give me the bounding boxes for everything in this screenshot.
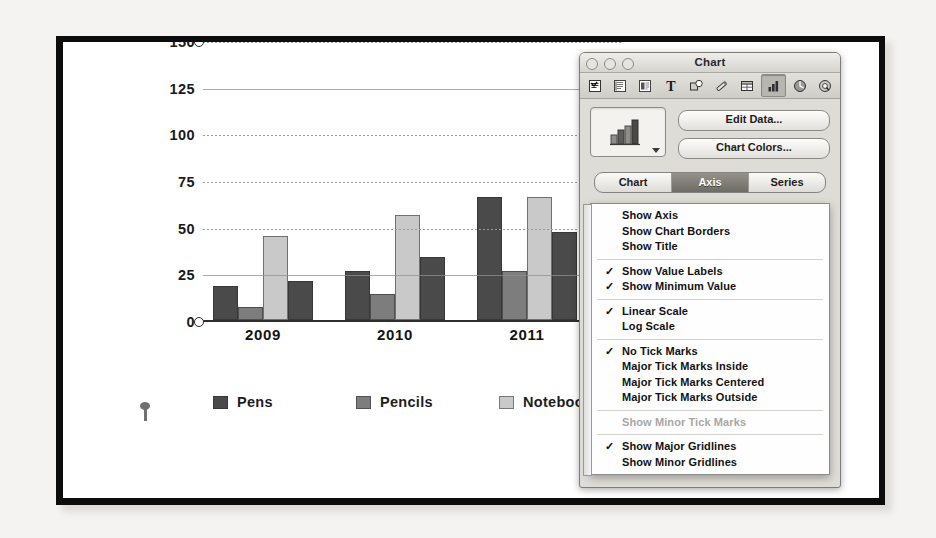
y-axis-tick: 25 [63,267,195,283]
menu-item-label: Major Tick Marks Centered [622,376,764,388]
menu-item-label: Show Minor Gridlines [622,456,737,468]
y-axis-tick: 125 [63,81,195,97]
bar [345,271,370,320]
axis-options-menu[interactable]: Show AxisShow Chart BordersShow Title✓Sh… [590,203,830,475]
menu-item-label: Log Scale [622,320,675,332]
window-title: Chart [580,53,840,72]
hyperlink-inspector-icon[interactable] [789,75,812,96]
tab-axis[interactable]: Axis [672,173,749,192]
legend-label: Pens [237,394,273,410]
legend-swatch [356,396,371,409]
x-axis-baseline [203,320,623,322]
wrap-inspector-icon[interactable] [634,75,657,96]
menu-item-label: Show Chart Borders [622,225,730,237]
menu-separator [597,339,823,340]
x-axis-tick: 2011 [510,326,545,343]
svg-text:T: T [666,79,676,94]
menu-item-major-tick-marks-centered[interactable]: Major Tick Marks Centered [591,375,829,391]
check-icon: ✓ [605,304,614,320]
gridline [203,135,623,136]
pin-marker-icon [140,402,150,422]
menu-item-label: Linear Scale [622,305,688,317]
menu-item-label: Major Tick Marks Inside [622,360,748,372]
chevron-down-icon[interactable] [652,148,660,153]
screenshot-root: 0255075100125150 200920102011 PensPencil… [0,0,936,538]
menu-item-show-title[interactable]: Show Title [591,239,829,255]
menu-item-show-axis[interactable]: Show Axis [591,208,829,224]
bar [263,236,288,320]
graphic-inspector-icon[interactable] [685,75,708,96]
menu-item-label: Show Value Labels [622,265,723,277]
bar-chart-icon [607,117,649,147]
tab-series[interactable]: Series [749,173,825,192]
chart-colors-button[interactable]: Chart Colors... [678,138,830,159]
bar [238,307,263,320]
layout-inspector-icon[interactable] [608,75,631,96]
inspector-titlebar[interactable]: Chart [580,53,840,73]
bar [477,197,502,320]
y-axis-tick: 0 [63,314,195,330]
menu-item-no-tick-marks[interactable]: ✓No Tick Marks [591,344,829,360]
gridline [203,229,623,230]
y-axis-tick: 50 [63,221,195,237]
menu-item-show-major-gridlines[interactable]: ✓Show Major Gridlines [591,439,829,455]
menu-item-label: No Tick Marks [622,345,698,357]
menu-item-label: Show Major Gridlines [622,440,736,452]
inspector-body: Edit Data... Chart Colors... [580,99,840,163]
check-icon: ✓ [605,344,614,360]
x-axis-tick: 2009 [245,326,281,343]
gridline [203,42,623,43]
gridline [203,275,623,276]
menu-item-show-value-labels[interactable]: ✓Show Value Labels [591,264,829,280]
bar [420,257,445,320]
menu-item-linear-scale[interactable]: ✓Linear Scale [591,304,829,320]
menu-item-show-minor-tick-marks: Show Minor Tick Marks [591,415,829,431]
menu-item-show-minor-gridlines[interactable]: Show Minor Gridlines [591,455,829,471]
menu-item-label: Major Tick Marks Outside [622,391,757,403]
inspector-tab-bar[interactable]: ChartAxisSeries [594,172,826,193]
menu-separator [597,434,823,435]
black-picture-frame: 0255075100125150 200920102011 PensPencil… [56,36,885,505]
gridline [203,89,623,90]
legend-swatch [213,396,228,409]
tab-chart[interactable]: Chart [595,173,672,192]
bar [395,215,420,320]
text-inspector-icon[interactable]: T [659,75,682,96]
bar-series-group [203,42,623,320]
bar-chart: 0255075100125150 200920102011 PensPencil… [63,42,623,442]
chart-inspector-icon[interactable] [761,74,786,97]
legend-item: Pens [213,394,273,410]
menu-item-major-tick-marks-outside[interactable]: Major Tick Marks Outside [591,390,829,406]
inspector-toolbar[interactable]: T [580,73,840,99]
chart-inspector-window[interactable]: Chart T [579,52,841,488]
chart-type-selector[interactable] [590,107,666,157]
y-axis-tick: 150 [63,42,195,50]
x-axis-tick-labels: 200920102011 [203,326,623,354]
menu-item-show-chart-borders[interactable]: Show Chart Borders [591,224,829,240]
plot-area [203,42,623,322]
y-axis-tick-labels: 0255075100125150 [63,42,195,342]
menu-item-major-tick-marks-inside[interactable]: Major Tick Marks Inside [591,359,829,375]
menu-item-label: Show Minimum Value [622,280,736,292]
bar [213,286,238,320]
menu-item-label: Show Title [622,240,678,252]
table-inspector-icon[interactable] [736,75,759,96]
edit-data-button[interactable]: Edit Data... [678,110,830,131]
menu-item-log-scale[interactable]: Log Scale [591,319,829,335]
document-inspector-icon[interactable] [583,75,606,96]
quicktime-inspector-icon[interactable] [814,75,837,96]
check-icon: ✓ [605,279,614,295]
menu-item-label: Show Axis [622,209,678,221]
page-canvas: 0255075100125150 200920102011 PensPencil… [63,42,879,498]
bar [502,271,527,320]
gridline [203,182,623,183]
check-icon: ✓ [605,439,614,455]
legend-label: Pencils [380,394,433,410]
bar [527,197,552,320]
chart-legend: PensPencilsNotebooks [213,394,633,420]
check-icon: ✓ [605,264,614,280]
x-axis-tick: 2010 [377,326,413,343]
metrics-inspector-icon[interactable] [710,75,733,96]
bar [288,281,313,320]
menu-item-show-minimum-value[interactable]: ✓Show Minimum Value [591,279,829,295]
